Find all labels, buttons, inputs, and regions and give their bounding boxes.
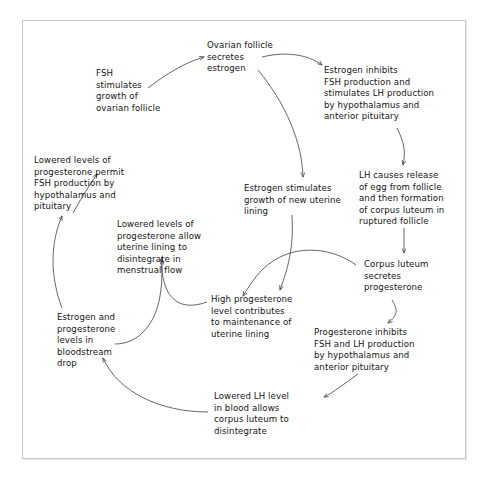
node-lowered-progesterone-permit: Lowered levels of progesterone permit FS… xyxy=(34,155,152,213)
node-high-progesterone: High progesterone level contributes to m… xyxy=(211,294,329,340)
diagram-page: Ovarian follicle secretes estrogen FSH s… xyxy=(0,0,488,479)
node-estrogen-stimulates-uterine: Estrogen stimulates growth of new uterin… xyxy=(244,183,354,218)
node-estrogen-inhibits: Estrogen inhibits FSH production and sti… xyxy=(324,65,464,123)
node-lh-causes-release: LH causes release of egg from follicle a… xyxy=(359,170,469,228)
node-corpus-luteum-secretes: Corpus luteum secretes progesterone xyxy=(364,259,474,294)
node-ovarian-follicle: Ovarian follicle secretes estrogen xyxy=(207,40,317,75)
node-estrogen-progesterone-drop: Estrogen and progesterone levels in bloo… xyxy=(57,312,157,370)
node-progesterone-inhibits: Progesterone inhibits FSH and LH product… xyxy=(314,327,454,373)
node-lowered-progesterone-allow: Lowered levels of progesterone allow ute… xyxy=(117,219,227,277)
node-lowered-lh-level: Lowered LH level in blood allows corpus … xyxy=(214,391,324,437)
node-fsh-stimulates: FSH stimulates growth of ovarian follicl… xyxy=(96,68,196,114)
